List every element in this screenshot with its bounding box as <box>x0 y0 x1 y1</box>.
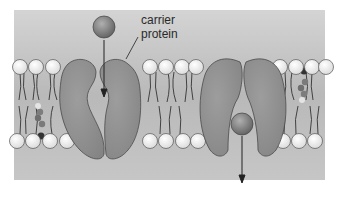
solute-outside <box>93 16 115 38</box>
solute-inside <box>231 113 253 135</box>
label-protein: protein <box>141 28 178 41</box>
label-carrier: carrier <box>141 14 175 27</box>
